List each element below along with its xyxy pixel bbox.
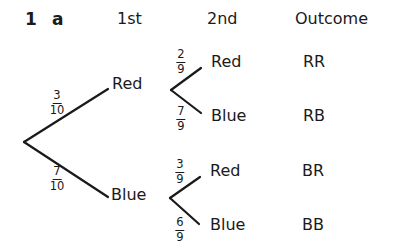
first-draw-blue-label: Blue (111, 187, 146, 203)
outcome-br: BR (302, 163, 324, 179)
header-second: 2nd (207, 11, 237, 27)
probability-red-red: 2 9 (176, 49, 185, 75)
tree-branches (0, 0, 398, 252)
probability-first-red: 3 10 (50, 90, 65, 116)
probability-blue-blue: 6 9 (175, 217, 184, 243)
denominator: 9 (176, 231, 183, 244)
numerator: 7 (176, 106, 185, 120)
first-draw-red-label: Red (112, 76, 142, 92)
numerator: 3 (175, 159, 184, 173)
numerator: 3 (52, 90, 61, 104)
denominator: 10 (50, 104, 65, 117)
second-draw-blue-blue-label: Blue (210, 217, 245, 233)
header-first: 1st (117, 11, 142, 27)
numerator: 6 (175, 217, 184, 231)
denominator: 9 (177, 63, 184, 76)
outcome-bb: BB (302, 217, 324, 233)
branch-first-red (24, 89, 108, 142)
second-draw-red-blue-label: Blue (211, 108, 246, 124)
branch-first-blue (24, 142, 108, 197)
question-part: a (52, 11, 63, 28)
denominator: 9 (177, 120, 184, 133)
probability-red-blue: 7 9 (176, 106, 185, 132)
outcome-rb: RB (303, 108, 325, 124)
probability-blue-red: 3 9 (175, 159, 184, 185)
probability-tree-diagram: 1 a 1st 2nd Outcome Red Blue 3 10 7 10 2… (0, 0, 398, 252)
denominator: 9 (176, 173, 183, 186)
outcome-rr: RR (303, 54, 325, 70)
numerator: 2 (176, 49, 185, 63)
numerator: 7 (52, 166, 61, 180)
denominator: 10 (50, 180, 65, 193)
header-outcome: Outcome (295, 11, 368, 27)
probability-first-blue: 7 10 (50, 166, 65, 192)
second-draw-red-red-label: Red (211, 54, 241, 70)
question-number: 1 (25, 11, 37, 28)
second-draw-blue-red-label: Red (210, 163, 240, 179)
